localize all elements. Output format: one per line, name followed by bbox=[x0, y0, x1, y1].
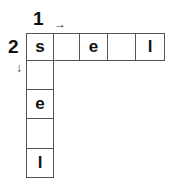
clue-number-down: 2 bbox=[8, 36, 19, 58]
cell-r0-c1[interactable] bbox=[53, 33, 80, 61]
cell-r4-c0[interactable]: l bbox=[26, 148, 54, 178]
cell-r1-c0[interactable] bbox=[26, 60, 54, 90]
cell-r3-c0[interactable] bbox=[26, 118, 54, 149]
arrow-right-icon: → bbox=[54, 17, 66, 31]
cell-r0-c0[interactable]: s bbox=[26, 33, 54, 61]
clue-number-across: 1 bbox=[33, 8, 44, 30]
cell-r0-c3[interactable] bbox=[107, 33, 136, 61]
arrow-down-icon: ↓ bbox=[16, 61, 22, 75]
cell-r0-c2[interactable]: e bbox=[79, 33, 108, 61]
cell-r0-c4[interactable]: l bbox=[135, 33, 165, 61]
cell-r2-c0[interactable]: e bbox=[26, 89, 54, 119]
